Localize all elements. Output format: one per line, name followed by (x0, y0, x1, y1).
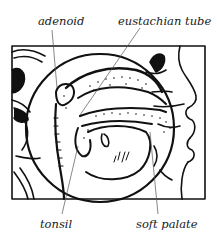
label-tonsil: tonsil (40, 219, 72, 231)
left-face-profile (12, 50, 45, 199)
right-face-profile (146, 46, 196, 199)
leader-eustachian-tube (80, 28, 140, 115)
leader-tonsil (62, 146, 78, 214)
adenoid-mass (56, 84, 74, 105)
label-soft-palate: soft palate (136, 219, 198, 231)
leader-adenoid (52, 30, 57, 88)
label-adenoid: adenoid (38, 16, 84, 28)
nasal-inner (78, 87, 166, 104)
palate-upper (80, 108, 166, 116)
tongue-hatch (114, 152, 129, 162)
uvula (101, 134, 108, 146)
label-eustachian-tube: eustachian tube (118, 16, 211, 28)
leader-soft-palate (150, 132, 158, 214)
anatomy-illustration (0, 0, 217, 244)
tongue (86, 126, 150, 179)
